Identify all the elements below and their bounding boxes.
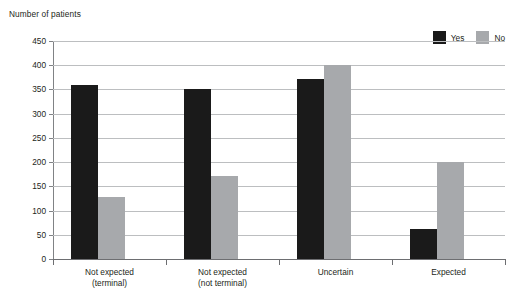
x-axis-label-line: Expected <box>392 267 505 278</box>
y-tick-label: 300 <box>6 109 46 119</box>
y-axis-ticks: 450400350300250200150100500 <box>0 0 46 305</box>
bar-yes-group-3[interactable] <box>297 79 324 259</box>
gridline <box>53 138 505 139</box>
x-axis-label-group-4: Expected <box>392 267 505 278</box>
bar-yes-group-1[interactable] <box>71 85 98 259</box>
bar-no-group-4[interactable] <box>437 162 464 259</box>
bar-no-group-1[interactable] <box>98 197 125 259</box>
x-axis-label-line: Not expected <box>53 267 166 278</box>
x-tick-mark <box>279 259 280 265</box>
y-tick-label: 250 <box>6 133 46 143</box>
bar-no-group-2[interactable] <box>211 176 238 259</box>
bar-chart: Number of patients YesNo 450400350300250… <box>0 0 525 305</box>
x-tick-mark <box>53 259 54 265</box>
gridline <box>53 65 505 66</box>
x-axis-label-line: (not terminal) <box>166 278 279 289</box>
y-tick-label: 400 <box>6 60 46 70</box>
x-axis-label-group-2: Not expected(not terminal) <box>166 267 279 289</box>
gridline <box>53 89 505 90</box>
y-tick-label: 450 <box>6 36 46 46</box>
bar-yes-group-4[interactable] <box>410 229 437 259</box>
x-tick-mark <box>166 259 167 265</box>
x-axis-label-line: (terminal) <box>53 278 166 289</box>
gridline <box>53 41 505 42</box>
x-tick-mark <box>505 259 506 265</box>
x-axis-label-line: Not expected <box>166 267 279 278</box>
y-tick-label: 100 <box>6 206 46 216</box>
y-tick-label: 50 <box>6 230 46 240</box>
x-tick-mark <box>392 259 393 265</box>
y-tick-label: 150 <box>6 181 46 191</box>
x-axis-label-group-3: Uncertain <box>279 267 392 278</box>
x-axis-label-group-1: Not expected(terminal) <box>53 267 166 289</box>
y-tick-label: 200 <box>6 157 46 167</box>
plot-area <box>53 41 505 259</box>
y-tick-label: 0 <box>6 254 46 264</box>
bar-no-group-3[interactable] <box>324 65 351 259</box>
bar-yes-group-2[interactable] <box>184 89 211 259</box>
gridline <box>53 114 505 115</box>
y-tick-label: 350 <box>6 84 46 94</box>
x-axis-label-line: Uncertain <box>279 267 392 278</box>
